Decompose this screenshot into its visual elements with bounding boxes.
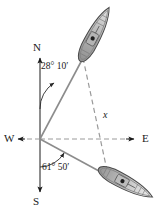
distance-label-x: x xyxy=(103,110,107,120)
compass-label-north: N xyxy=(33,42,41,53)
ship-top xyxy=(74,4,115,65)
bearing-diagram-figure: N S W E 28° 10′ 61° 50′ x xyxy=(0,0,159,216)
angle-label-bottom: 61° 50′ xyxy=(42,163,69,173)
compass-label-south: S xyxy=(33,196,39,207)
compass-label-east: E xyxy=(142,133,149,144)
ship-bottom xyxy=(95,162,156,203)
diagram-canvas xyxy=(0,0,159,216)
angle-arc-top xyxy=(40,83,54,109)
compass-label-west: W xyxy=(4,133,14,144)
angle-label-top: 28° 10′ xyxy=(41,62,68,72)
